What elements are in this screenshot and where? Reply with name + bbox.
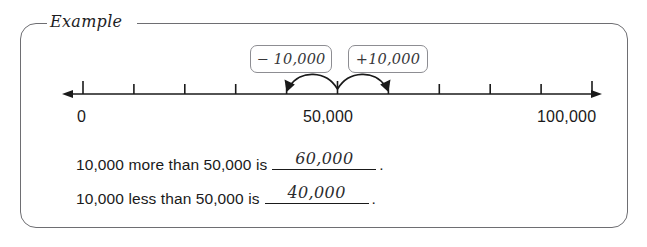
axis-label-middle: 50,000 xyxy=(303,108,353,126)
axis-arrow-left-icon xyxy=(62,90,73,98)
statement-more-answer: 60,000 xyxy=(295,149,353,168)
jump-arc-left xyxy=(290,74,338,89)
example-caption: Example xyxy=(50,12,122,31)
example-panel: Example − 10,000 +10,000 xyxy=(0,0,647,247)
statement-less-blank[interactable]: 40,000 xyxy=(265,186,369,204)
statement-more-suffix: . xyxy=(379,156,383,174)
statement-less-suffix: . xyxy=(372,190,376,208)
statement-more-prefix: 10,000 more than 50,000 is xyxy=(76,156,267,174)
statement-less-prefix: 10,000 less than 50,000 is xyxy=(76,190,260,208)
axis-label-end: 100,000 xyxy=(537,108,596,126)
jump-arc-right xyxy=(338,74,386,89)
axis-label-start: 0 xyxy=(77,108,86,126)
statement-less-answer: 40,000 xyxy=(287,183,345,202)
statement-more-blank[interactable]: 60,000 xyxy=(272,152,376,170)
statement-less: 10,000 less than 50,000 is 40,000 . xyxy=(76,186,376,208)
number-line xyxy=(0,60,647,112)
statement-more: 10,000 more than 50,000 is 60,000 . xyxy=(76,152,384,174)
